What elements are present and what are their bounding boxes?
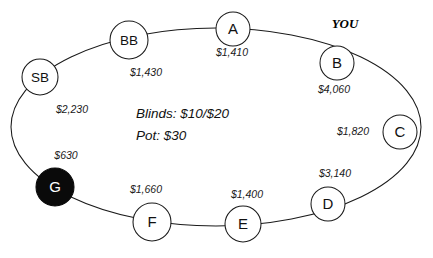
poker-table-diagram: SB$2,230BB$1,430A$1,410B$4,060C$1,820D$3… [0,0,433,258]
seat-sb[interactable]: SB [22,59,58,95]
seat-c[interactable]: C [383,115,417,149]
seat-label-g: G [49,178,61,195]
center-info-block: Blinds: $10/$20 Pot: $30 [136,106,230,143]
stack-label-f: $1,660 [129,183,162,195]
seat-label-e: E [238,215,248,232]
stack-label-bb: $1,430 [129,66,162,78]
seat-label-a: A [228,20,238,37]
stack-label-g: $630 [53,149,78,161]
seat-label-f: F [147,213,156,230]
seat-d[interactable]: D [311,187,345,221]
seat-label-sb: SB [31,70,49,85]
stack-label-d: $3,140 [318,167,351,179]
table-svg: SB$2,230BB$1,430A$1,410B$4,060C$1,820D$3… [0,0,433,258]
seat-bb[interactable]: BB [110,21,148,59]
you-marker-label: YOU [332,16,359,31]
stack-label-sb: $2,230 [55,103,88,115]
stack-label-a: $1,410 [215,46,248,58]
seat-label-bb: BB [120,33,138,48]
seat-e[interactable]: E [225,206,261,242]
pot-line: Pot: $30 [136,128,187,143]
stack-label-b: $4,060 [317,83,350,95]
blinds-line: Blinds: $10/$20 [136,106,230,121]
stack-label-e: $1,400 [230,188,263,200]
seats-layer: SB$2,230BB$1,430A$1,410B$4,060C$1,820D$3… [22,12,417,242]
seat-b[interactable]: B [320,46,354,80]
seat-label-c: C [395,123,406,140]
seat-f[interactable]: F [133,203,171,241]
stack-label-c: $1,820 [336,125,369,137]
seat-label-d: D [323,195,334,212]
seat-g[interactable]: G [36,168,74,206]
seat-a[interactable]: A [216,12,250,46]
seat-label-b: B [332,54,342,71]
